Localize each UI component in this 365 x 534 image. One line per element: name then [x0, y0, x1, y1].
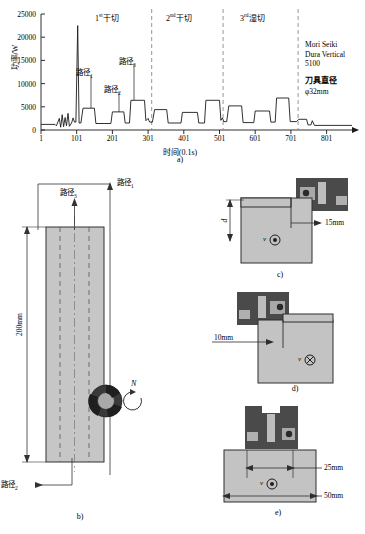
y-tick-label: 10000	[2, 80, 36, 89]
x-tick-label: 1	[28, 134, 54, 143]
panel-b-graphics	[0, 160, 200, 534]
panel-b-path1-index: 1	[131, 183, 134, 189]
x-tick-label: 501	[207, 134, 233, 143]
panel-e-velocity-label: v	[260, 479, 263, 487]
x-tick-label: 801	[314, 134, 340, 143]
panel-b-caption: b)	[50, 512, 110, 521]
panel-e-cut-geometry: 25mm 50mm v e)	[200, 398, 365, 530]
panel-b-spindle-speed-label: N	[131, 379, 136, 388]
panel-e-outer-dimension: 50mm	[324, 491, 343, 500]
machine-name-line2: Dura Vertical	[305, 50, 345, 60]
panel-b-path2-label: 路径2	[1, 478, 18, 491]
panel-b-path1-text: 路径	[117, 178, 131, 187]
panel-b-path3-label: 路径3	[60, 186, 77, 199]
path1-index: 1	[90, 73, 93, 79]
y-tick-label: 25000	[2, 10, 36, 19]
panel-b-path2-text: 路径	[1, 480, 15, 489]
panel-d-caption: d)	[275, 384, 315, 393]
x-tick-label: 301	[135, 134, 161, 143]
panel-c-width-dimension: 15mm	[325, 218, 344, 227]
panel-a-power-chart: 功率/W	[0, 0, 365, 162]
panel-d-velocity-label: v	[298, 355, 301, 363]
panel-e-caption: e)	[258, 508, 298, 517]
section-title-2: 2nd干切	[166, 12, 192, 23]
panel-b-workpiece-diagram: 路径1 路径3 路径2 200mm N b)	[0, 160, 200, 534]
y-tick-label: 20000	[2, 33, 36, 42]
x-tick-label: 701	[278, 134, 304, 143]
path3-index: 3	[133, 62, 136, 68]
section-3-text: 湿切	[249, 14, 265, 23]
panel-c-caption: c)	[260, 270, 300, 279]
y-tick-label: 5000	[2, 103, 36, 112]
path2-text: 路径	[104, 85, 118, 94]
panel-b-path1-label: 路径1	[117, 176, 134, 189]
machine-name-line3: 5100	[305, 59, 345, 69]
panel-c-cut-geometry: d 15mm v c)	[200, 178, 365, 296]
chart-annotation-path3: 路径3	[119, 55, 136, 68]
machine-info-block: Mori Seiki Dura Vertical 5100	[305, 40, 345, 69]
path2-index: 2	[118, 90, 121, 96]
chart-annotation-path1: 路径1	[76, 66, 93, 79]
y-tick-label: 15000	[2, 56, 36, 65]
panel-c-velocity-label: v	[263, 235, 266, 243]
panel-c-depth-label: d	[220, 211, 229, 231]
section-2-text: 干切	[176, 14, 192, 23]
panel-b-path2-index: 2	[15, 485, 18, 491]
panel-e-inner-dimension: 25mm	[324, 463, 343, 472]
section-title-3: 3rd湿切	[240, 12, 265, 23]
x-tick-label: 601	[242, 134, 268, 143]
x-tick-label: 201	[99, 134, 125, 143]
section-title-1: 1st干切	[95, 12, 119, 23]
tool-diameter-value: φ32mm	[305, 87, 329, 97]
panel-d-cut-geometry: 10mm v d)	[200, 292, 365, 397]
x-tick-label: 401	[171, 134, 197, 143]
panel-b-path3-index: 3	[74, 193, 77, 199]
chart-annotation-path2: 路径2	[104, 83, 121, 96]
section-1-text: 干切	[103, 14, 119, 23]
panel-d-graphics	[200, 292, 365, 397]
machine-name-line1: Mori Seiki	[305, 40, 345, 50]
panel-b-path3-text: 路径	[60, 188, 74, 197]
path1-text: 路径	[76, 68, 90, 77]
tool-block-icon	[245, 406, 298, 449]
panel-d-width-dimension: 10mm	[214, 333, 233, 342]
tool-diameter-label: 刀具直径	[305, 76, 337, 86]
x-tick-label: 101	[64, 134, 90, 143]
path3-text: 路径	[119, 57, 133, 66]
panel-b-length-dimension: 200mm	[15, 297, 24, 353]
